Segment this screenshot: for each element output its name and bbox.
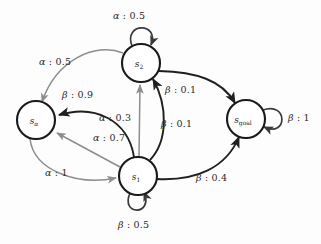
edge-s1-to-s2-alpha (139, 85, 140, 157)
edge-label-s1-to-sa-beta: β : 0.9 (62, 89, 93, 100)
edge-label-s1-to-s2-alpha: α : 0.3 (99, 112, 131, 123)
node-sa[interactable]: sα (17, 101, 55, 139)
node-s1[interactable]: s1 (119, 157, 157, 195)
edge-label-s1-self: β : 0.5 (118, 219, 149, 230)
edge-label-sa-to-s1-alpha: α : 1 (45, 167, 68, 178)
node-s2[interactable]: s2 (122, 44, 160, 82)
edge-label-s1-to-sa-alpha: α : 0.7 (93, 132, 125, 143)
edge-label-s1-to-s2-beta: β : 0.1 (161, 118, 192, 129)
node-sgoal[interactable]: sgoal (227, 100, 265, 138)
edge-label-s1-to-sgoal-beta: β : 0.4 (196, 172, 227, 183)
edge-label-s2-to-sa: α : 0.5 (39, 56, 71, 67)
edge-sa-to-s1-alpha (30, 139, 116, 180)
edge-label-s2-to-sgoal-beta: β : 0.1 (165, 84, 196, 95)
state-diagram-canvas: s2 sα sgoal s1 α : 0.5 α : 0.5 β : 0.9 α… (0, 0, 321, 244)
edge-label-sgoal-self: β : 1 (288, 112, 310, 123)
edge-label-s2-self: α : 0.5 (113, 10, 145, 21)
